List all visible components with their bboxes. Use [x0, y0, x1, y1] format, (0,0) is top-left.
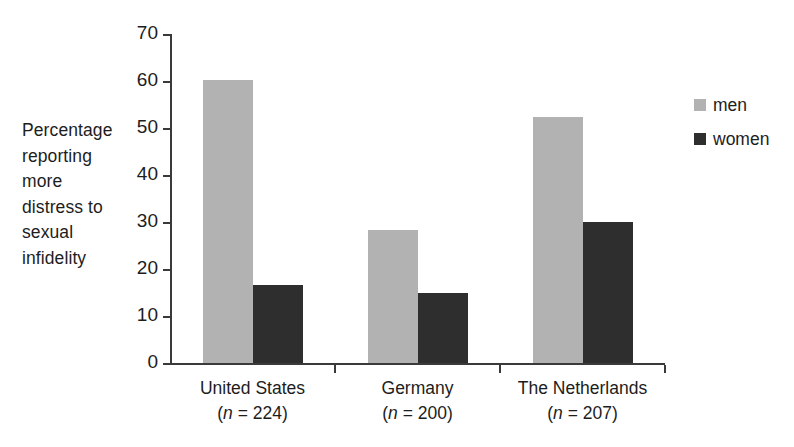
plot-area: 010203040506070 [170, 34, 665, 365]
y-tick: 20 [163, 269, 170, 271]
y-tick: 50 [163, 128, 170, 130]
y-tick-label: 50 [137, 116, 158, 138]
bar-women-germany[interactable] [418, 293, 468, 364]
x-axis-category-label: The Netherlands(n = 207) [500, 376, 665, 426]
y-tick: 0 [163, 363, 170, 365]
legend: men women [694, 88, 769, 156]
x-axis-line [170, 363, 665, 365]
category-sample-size: (n = 224) [170, 401, 335, 426]
x-tick [499, 365, 501, 373]
y-tick: 40 [163, 175, 170, 177]
bar-men-the-netherlands[interactable] [533, 117, 583, 363]
bar-chart-figure: Percentage reporting more distress to se… [0, 0, 794, 447]
y-tick: 60 [163, 81, 170, 83]
y-tick: 70 [163, 34, 170, 36]
bar-men-germany[interactable] [368, 230, 418, 363]
y-tick-label: 70 [137, 22, 158, 44]
y-tick: 10 [163, 316, 170, 318]
y-axis-label-line: more [22, 169, 134, 195]
x-axis-category-label: United States(n = 224) [170, 376, 335, 426]
y-tick-label: 10 [137, 304, 158, 326]
category-name: Germany [335, 376, 500, 401]
legend-item-women[interactable]: women [694, 122, 769, 156]
y-tick-label: 40 [137, 163, 158, 185]
y-tick-label: 0 [147, 351, 158, 373]
bar-women-united-states[interactable] [253, 285, 303, 363]
x-tick [664, 365, 666, 373]
bar-men-united-states[interactable] [203, 80, 253, 363]
bar-women-the-netherlands[interactable] [583, 222, 633, 363]
y-axis-label-line: infidelity [22, 246, 134, 272]
y-axis-label: Percentage reporting more distress to se… [22, 118, 134, 271]
y-axis-label-line: sexual [22, 220, 134, 246]
category-name: The Netherlands [500, 376, 665, 401]
legend-swatch-men [694, 99, 706, 111]
y-tick-label: 20 [137, 257, 158, 279]
category-sample-size: (n = 207) [500, 401, 665, 426]
legend-swatch-women [694, 133, 706, 145]
category-sample-size: (n = 200) [335, 401, 500, 426]
y-tick-label: 30 [137, 210, 158, 232]
legend-label-men: men [713, 95, 747, 115]
x-axis-category-label: Germany(n = 200) [335, 376, 500, 426]
y-axis-label-line: Percentage [22, 118, 134, 144]
x-tick [334, 365, 336, 373]
legend-item-men[interactable]: men [694, 88, 769, 122]
y-tick-label: 60 [137, 69, 158, 91]
y-axis-line [170, 34, 172, 365]
y-axis-label-line: distress to [22, 195, 134, 221]
category-name: United States [170, 376, 335, 401]
legend-label-women: women [713, 129, 769, 149]
y-axis-label-line: reporting [22, 144, 134, 170]
y-tick: 30 [163, 222, 170, 224]
